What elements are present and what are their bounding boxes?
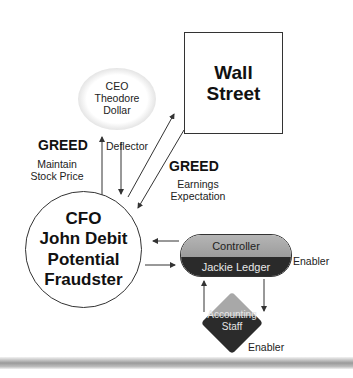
earnings-expectation-line1: Earnings xyxy=(160,179,236,191)
ceo-last-name: Dollar xyxy=(95,105,140,117)
enabler-label-staff: Enabler xyxy=(248,341,284,353)
enabler-label-controller: Enabler xyxy=(293,255,329,267)
maintain-stock-price-line2: Stock Price xyxy=(22,171,92,183)
wall-street-line1: Wall xyxy=(207,62,261,83)
cfo-name: John Debit xyxy=(40,229,128,249)
controller-node: Controller Jackie Ledger xyxy=(180,234,292,277)
earnings-expectation-line2: Expectation xyxy=(160,191,236,203)
wall-street-node: Wall Street xyxy=(184,32,283,134)
bottom-separator-bar xyxy=(0,357,353,369)
cfo-role-line2: Fraudster xyxy=(40,270,128,290)
earnings-expectation-label: Earnings Expectation xyxy=(160,179,236,203)
cfo-title: CFO xyxy=(40,209,128,229)
maintain-stock-price-label: Maintain Stock Price xyxy=(22,159,92,183)
controller-name: Jackie Ledger xyxy=(181,257,291,276)
deflector-label: Deflector xyxy=(106,140,148,152)
ceo-node: CEO Theodore Dollar xyxy=(78,68,156,130)
accounting-staff-line1: Accounting xyxy=(200,309,264,321)
fraud-diagram: CEO Theodore Dollar Wall Street CFO John… xyxy=(0,0,353,378)
maintain-stock-price-line1: Maintain xyxy=(22,159,92,171)
cfo-role-line1: Potential xyxy=(40,250,128,270)
controller-title: Controller xyxy=(181,235,291,257)
cfo-node: CFO John Debit Potential Fraudster xyxy=(25,191,142,308)
greed-label-right: GREED xyxy=(169,158,219,174)
greed-label-left: GREED xyxy=(38,137,88,153)
accounting-staff-line2: Staff xyxy=(200,321,264,333)
wall-street-line2: Street xyxy=(207,83,261,104)
